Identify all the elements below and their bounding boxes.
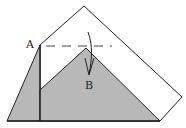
left-gray-flap [7,45,40,121]
label-a: A [25,38,35,51]
origami-diagram: A B [0,0,186,128]
label-b: B [85,79,93,92]
